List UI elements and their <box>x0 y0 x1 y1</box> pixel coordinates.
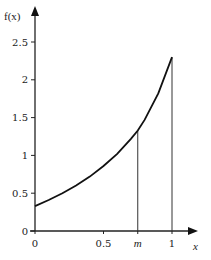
y-tick-label: 1 <box>22 150 28 161</box>
y-tick-label: 0 <box>22 226 28 237</box>
y-axis-ticks: 00.511.522.5 <box>12 37 35 237</box>
function-curve <box>35 57 172 206</box>
y-tick-label: 0.5 <box>12 188 28 199</box>
y-tick-label: 2.5 <box>12 37 28 48</box>
x-tick-label: 0 <box>32 238 38 249</box>
x-axis-ticks: 00.5m1 <box>32 231 175 249</box>
chart-canvas: 00.511.522.5 00.5m1 f(x) x <box>0 0 211 260</box>
x-tick-label: 0.5 <box>96 238 112 249</box>
x-tick-label: 1 <box>169 238 175 249</box>
y-axis-label: f(x) <box>4 10 21 23</box>
x-axis-label: x <box>192 240 198 252</box>
y-axis-arrow-icon <box>31 6 39 16</box>
y-tick-label: 1.5 <box>12 112 28 123</box>
vertical-markers <box>138 57 172 231</box>
x-tick-label: m <box>134 237 142 249</box>
x-axis-arrow-icon <box>188 227 198 235</box>
y-tick-label: 2 <box>22 74 28 85</box>
